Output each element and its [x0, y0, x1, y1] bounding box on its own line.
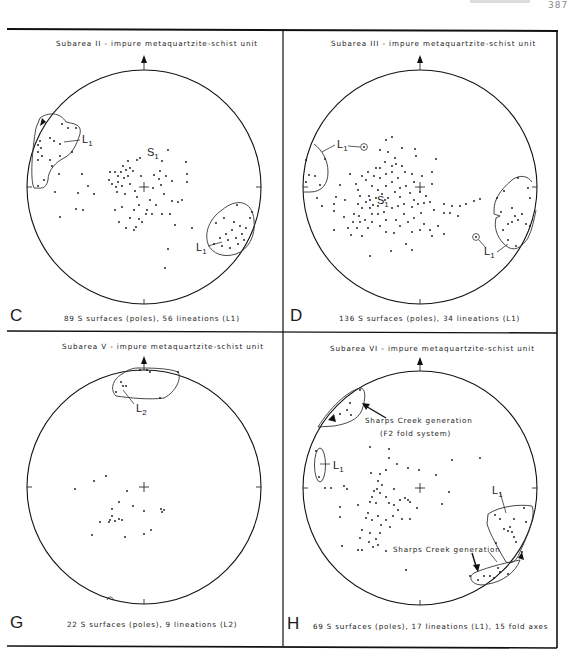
- stereonet-c: [27, 55, 261, 304]
- label-l1-se: L1: [196, 241, 207, 256]
- panel-letter: C: [10, 306, 22, 326]
- label-l1-w: L1: [333, 459, 344, 474]
- label-s1: S1: [377, 194, 389, 209]
- figure-frame: [0, 0, 581, 660]
- panel-caption: 89 S surfaces (poles), 56 lineations (L1…: [64, 314, 240, 323]
- panel-letter: G: [10, 613, 23, 633]
- panel-caption: 136 S surfaces (poles), 34 lineations (L…: [339, 314, 520, 323]
- panel-title: Subarea III - impure metaquartzite-schis…: [331, 39, 536, 48]
- stereonet-g: [27, 356, 261, 604]
- panel-caption: 69 S surfaces (poles), 17 lineations (L1…: [313, 622, 548, 631]
- panel-caption: 22 S surfaces (poles), 9 lineations (L2): [67, 620, 237, 629]
- stereonet-h: [303, 357, 537, 605]
- label-l2: L2: [136, 402, 147, 417]
- panel-title: Subarea VI - impure metaquartzite-schist…: [330, 344, 535, 353]
- label-l1-se: L1: [492, 484, 503, 499]
- panel-letter: H: [287, 614, 299, 634]
- north-arrow-icon: [141, 356, 147, 364]
- panel-title: Subarea II - impure metaquartzite-schist…: [56, 39, 258, 48]
- panel-letter: D: [290, 306, 302, 326]
- stereonet-d: [303, 55, 537, 304]
- north-arrow-icon: [417, 55, 423, 63]
- label-l1-se: L1: [484, 245, 495, 260]
- label-s1: S1: [147, 146, 159, 161]
- data-points-c: [37, 123, 253, 269]
- label-l1-nw: L1: [82, 133, 93, 148]
- label-l1-nw: L1: [337, 138, 348, 153]
- data-points-d: [305, 136, 531, 257]
- note-sharps-creek-upper: Sharps Creek generation: [365, 416, 473, 425]
- note-f2-fold-system: (F2 fold system): [380, 429, 451, 438]
- panel-title: Subarea V - impure metaquartzite-schist …: [62, 342, 264, 351]
- north-arrow-icon: [417, 357, 423, 365]
- north-arrow-icon: [141, 55, 147, 63]
- note-sharps-creek-lower: Sharps Creek generation: [393, 545, 501, 554]
